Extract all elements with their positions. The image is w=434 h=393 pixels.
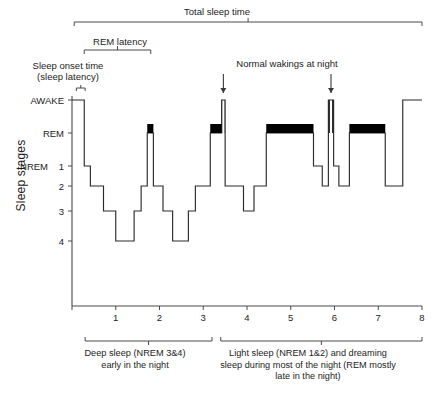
- y-tick-label: 3: [59, 206, 64, 217]
- waking-arrow-head: [220, 88, 226, 93]
- hypnogram-figure: Total sleep time REM latency Sleep onset…: [0, 0, 434, 393]
- y-tick-label: REM: [43, 128, 64, 139]
- x-tick-label: 5: [288, 312, 293, 323]
- hypnogram-step-line: [72, 100, 422, 241]
- x-tick-label: 2: [157, 312, 162, 323]
- x-axis-ticks: 12345678: [72, 306, 425, 323]
- rem-period-bar: [210, 124, 221, 133]
- rem-period-bar: [349, 124, 385, 133]
- bracket-total-sleep-time: [74, 18, 422, 26]
- y-axis-nrem-group-label: NREM: [20, 161, 48, 172]
- hypnogram-plot: AWAKEREM1234 12345678 NREM: [0, 0, 434, 393]
- rem-period-bar: [147, 124, 153, 133]
- normal-waking-arrows: [220, 74, 334, 93]
- bracket-rem-latency: [84, 46, 151, 54]
- y-tick-label: 4: [59, 236, 64, 247]
- y-tick-label: 2: [59, 181, 64, 192]
- bracket-light-sleep: [221, 337, 422, 345]
- x-tick-label: 3: [201, 312, 206, 323]
- x-tick-label: 4: [244, 312, 249, 323]
- rem-period-bars: [147, 124, 385, 133]
- y-tick-label: 1: [59, 161, 64, 172]
- x-tick-label: 8: [419, 312, 424, 323]
- x-tick-label: 1: [113, 312, 118, 323]
- bracket-sleep-onset: [76, 85, 85, 91]
- waking-arrow-head: [328, 88, 334, 93]
- x-tick-label: 7: [376, 312, 381, 323]
- x-tick-label: 6: [332, 312, 337, 323]
- y-tick-label: AWAKE: [30, 95, 64, 106]
- rem-period-bar: [266, 124, 313, 133]
- bracket-deep-sleep: [85, 337, 212, 345]
